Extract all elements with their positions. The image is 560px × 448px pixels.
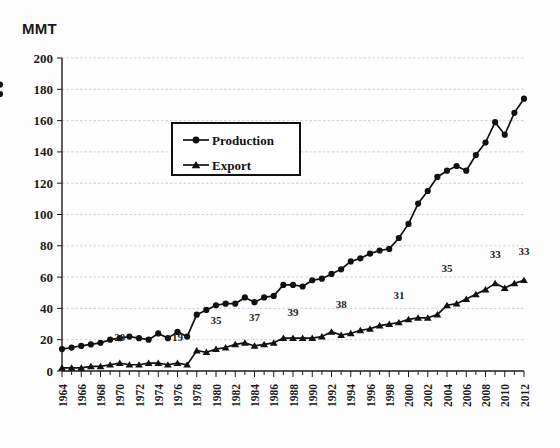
data-point-marker xyxy=(425,188,431,194)
data-point-marker xyxy=(338,266,344,272)
legend-item-label[interactable]: Production xyxy=(212,133,275,148)
data-point-marker xyxy=(271,293,277,299)
annotations-group: 20193537393831353333 xyxy=(114,245,530,343)
x-tick-label: 1982 xyxy=(230,384,242,407)
x-tick-label: 1992 xyxy=(326,384,338,407)
x-tick-label: 1996 xyxy=(365,384,377,407)
data-point-marker xyxy=(78,343,84,349)
data-point-marker xyxy=(444,168,450,174)
data-point-marker xyxy=(203,307,209,313)
x-tick-label: 2012 xyxy=(519,384,531,407)
gridlines-group xyxy=(62,58,524,340)
data-point-marker xyxy=(357,255,363,261)
data-point-marker xyxy=(300,283,306,289)
data-annotation: 38 xyxy=(336,298,348,310)
y-tick-label: 120 xyxy=(34,176,54,191)
data-point-marker xyxy=(126,333,132,339)
x-tick-label: 1990 xyxy=(307,384,319,407)
data-annotation: 33 xyxy=(490,248,502,260)
y-tick-label: 200 xyxy=(34,51,54,66)
data-point-marker xyxy=(184,333,190,339)
data-point-marker xyxy=(146,337,152,343)
x-tick-label: 1976 xyxy=(172,384,184,407)
data-annotation: 33 xyxy=(519,245,531,257)
y-tick-label: 140 xyxy=(34,144,54,159)
chart-plot-area: 020406080100120140160180200 196419661968… xyxy=(0,0,560,448)
data-point-marker xyxy=(492,119,498,125)
y-tick-label: 160 xyxy=(34,113,54,128)
x-tick-label: 1974 xyxy=(153,384,165,407)
x-tick-label: 2004 xyxy=(442,384,454,407)
data-point-marker xyxy=(251,299,257,305)
y-tick-label: 180 xyxy=(34,82,54,97)
legend-item-label[interactable]: Export xyxy=(212,158,252,173)
data-point-marker xyxy=(0,82,3,88)
data-annotation: 35 xyxy=(442,262,454,274)
data-point-marker xyxy=(511,110,517,116)
data-point-marker xyxy=(462,295,470,301)
data-point-marker xyxy=(165,335,171,341)
data-annotation: 31 xyxy=(393,289,404,301)
chart-figure: MMT 020406080100120140160180200 19641966… xyxy=(0,0,560,448)
x-tick-label: 2008 xyxy=(480,384,492,407)
data-point-marker xyxy=(136,335,142,341)
y-tick-label: 80 xyxy=(40,238,53,253)
data-point-marker xyxy=(491,280,499,286)
data-point-marker xyxy=(232,301,238,307)
data-annotation: 39 xyxy=(288,306,300,318)
x-tick-label: 1970 xyxy=(114,384,126,407)
data-point-marker xyxy=(396,235,402,241)
series-export xyxy=(58,277,528,371)
data-point-marker xyxy=(454,163,460,169)
x-tick-label: 2010 xyxy=(499,384,511,407)
y-tick-label: 60 xyxy=(40,270,53,285)
x-tick-label: 2000 xyxy=(403,384,415,407)
x-tick-label: 1968 xyxy=(95,384,107,407)
data-point-marker xyxy=(482,139,488,145)
data-point-marker xyxy=(261,294,267,300)
data-point-marker xyxy=(405,221,411,227)
data-point-marker xyxy=(290,282,296,288)
data-annotation: 20 xyxy=(114,331,126,343)
data-point-marker xyxy=(463,168,469,174)
data-point-marker xyxy=(280,282,286,288)
series-line xyxy=(62,280,524,368)
data-point-marker xyxy=(97,340,103,346)
data-point-marker xyxy=(328,328,336,334)
x-tick-label: 1998 xyxy=(384,384,396,407)
data-point-marker xyxy=(520,277,528,283)
x-tick-label: 1978 xyxy=(191,384,203,407)
y-tick-label: 0 xyxy=(47,364,54,379)
data-point-marker xyxy=(501,284,509,290)
data-point-marker xyxy=(434,174,440,180)
y-axis-ticks-group: 020406080100120140160180200 xyxy=(34,51,63,379)
data-annotation: 35 xyxy=(211,314,223,326)
chart-legend[interactable]: ProductionExport xyxy=(172,123,300,175)
data-point-marker xyxy=(223,301,229,307)
data-point-marker xyxy=(155,330,161,336)
data-point-marker xyxy=(328,271,334,277)
x-tick-label: 1980 xyxy=(211,384,223,407)
data-annotation: 37 xyxy=(249,311,261,323)
x-tick-label: 1986 xyxy=(268,384,280,407)
x-tick-label: 1972 xyxy=(134,384,146,407)
x-tick-label: 1984 xyxy=(249,384,261,407)
data-point-marker xyxy=(69,344,75,350)
data-point-marker xyxy=(377,247,383,253)
data-point-marker xyxy=(415,200,421,206)
data-annotation: 19 xyxy=(172,331,184,343)
data-point-marker xyxy=(502,132,508,138)
data-point-marker xyxy=(473,152,479,158)
data-point-marker xyxy=(348,258,354,264)
data-point-marker xyxy=(213,302,219,308)
y-tick-label: 100 xyxy=(34,207,54,222)
x-tick-label: 1994 xyxy=(345,384,357,407)
data-point-marker xyxy=(309,277,315,283)
x-tick-label: 2006 xyxy=(461,384,473,407)
y-tick-label: 20 xyxy=(40,332,53,347)
data-point-marker xyxy=(472,291,480,297)
data-point-marker xyxy=(386,246,392,252)
data-point-marker xyxy=(88,341,94,347)
legend-marker-circle-icon xyxy=(193,137,200,144)
data-point-marker xyxy=(367,251,373,257)
